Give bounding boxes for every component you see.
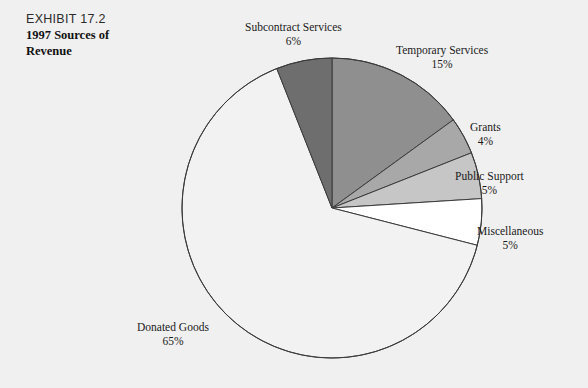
slice-label-temporary-services: Temporary Services 15%	[396, 43, 488, 71]
slice-label-name: Temporary Services	[396, 43, 488, 57]
slice-label-subcontract-services: Subcontract Services 6%	[245, 20, 342, 48]
slice-label-percent: 5%	[477, 238, 543, 252]
slice-label-name: Subcontract Services	[245, 20, 342, 34]
slice-label-percent: 4%	[470, 134, 501, 148]
slice-label-public-support: Public Support 5%	[455, 169, 524, 197]
slice-label-grants: Grants 4%	[470, 120, 501, 148]
pie-slice-group	[182, 58, 482, 358]
slice-label-percent: 15%	[396, 57, 488, 71]
slice-label-name: Public Support	[455, 169, 524, 183]
slice-label-percent: 6%	[245, 34, 342, 48]
slice-label-name: Miscellaneous	[477, 224, 543, 238]
slice-label-donated-goods: Donated Goods 65%	[137, 320, 209, 348]
slice-label-percent: 65%	[137, 334, 209, 348]
slice-label-name: Donated Goods	[137, 320, 209, 334]
slice-label-percent: 5%	[455, 183, 524, 197]
slice-label-miscellaneous: Miscellaneous 5%	[477, 224, 543, 252]
exhibit-figure: EXHIBIT 17.2 1997 Sources of Revenue Sub…	[0, 0, 588, 388]
slice-label-name: Grants	[470, 120, 501, 134]
